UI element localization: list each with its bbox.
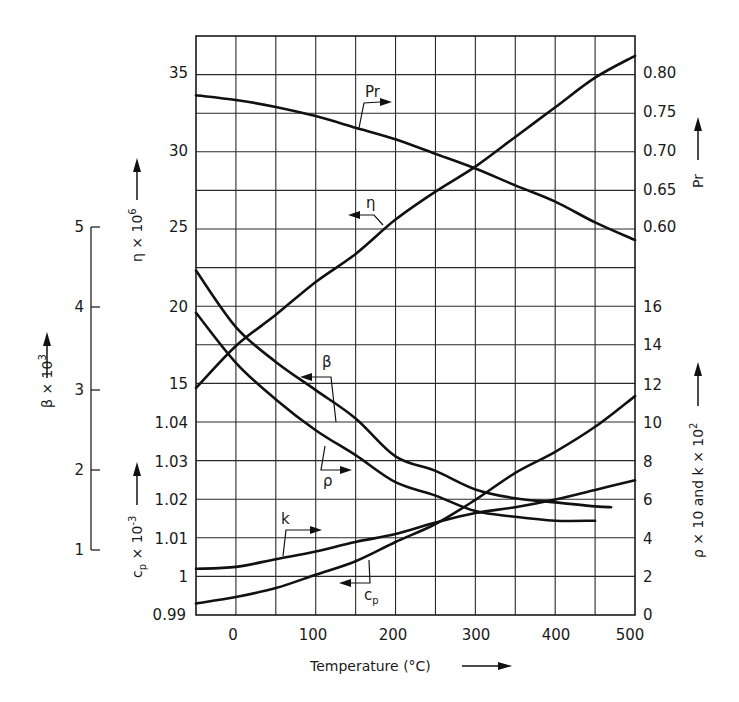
rhok-tick: 12 bbox=[643, 376, 662, 394]
cp-axis-label: cp × 10-3 bbox=[127, 516, 148, 579]
rhok-tick: 8 bbox=[643, 453, 653, 471]
pr-tick: 0.65 bbox=[643, 181, 676, 199]
x-axis-label: Temperature (°C) bbox=[309, 658, 431, 674]
svg-text:Pr: Pr bbox=[365, 83, 381, 101]
rhok-axis-arrow-icon bbox=[694, 362, 702, 406]
rhok-tick: 14 bbox=[643, 336, 662, 354]
svg-text:cp: cp bbox=[364, 586, 379, 606]
pr-axis-ticks: 0.80 0.75 0.70 0.65 0.60 bbox=[643, 64, 676, 236]
rhok-axis-ticks: 16 14 12 10 8 6 4 2 0 bbox=[643, 298, 662, 624]
rhok-axis-label: ρ × 10 and k × 102 bbox=[688, 423, 706, 559]
eta-tick: 15 bbox=[169, 375, 188, 393]
beta-tick: 4 bbox=[74, 298, 84, 316]
pr-tick: 0.70 bbox=[643, 142, 676, 160]
svg-text:k: k bbox=[281, 510, 290, 528]
beta-axis: 5 4 3 2 1 bbox=[74, 218, 100, 559]
rhok-tick: 16 bbox=[643, 298, 662, 316]
x-tick: 500 bbox=[616, 626, 645, 644]
rhok-tick: 10 bbox=[643, 414, 662, 432]
x-tick: 400 bbox=[542, 626, 571, 644]
x-tick: 100 bbox=[299, 626, 328, 644]
curve-label-eta: η bbox=[348, 194, 383, 225]
x-axis-arrow-icon bbox=[462, 662, 512, 670]
pr-axis-arrow-icon bbox=[694, 117, 702, 160]
cp-axis-ticks: 1.04 1.03 1.02 1.01 1 0.99 bbox=[153, 414, 188, 624]
x-tick: 200 bbox=[379, 626, 408, 644]
rhok-tick: 4 bbox=[643, 530, 653, 548]
svg-text:β × 103: β × 103 bbox=[37, 354, 55, 408]
cp-tick: 1.01 bbox=[155, 530, 188, 548]
cp-tick: 1.02 bbox=[155, 491, 188, 509]
curve-label-pr: Pr bbox=[359, 83, 392, 128]
curve-cp bbox=[196, 396, 635, 603]
curve-label-beta: β bbox=[300, 353, 336, 422]
rhok-tick: 2 bbox=[643, 568, 653, 586]
eta-tick: 20 bbox=[169, 298, 188, 316]
pr-tick: 0.80 bbox=[643, 64, 676, 82]
svg-text:ρ: ρ bbox=[323, 472, 333, 490]
rhok-tick: 0 bbox=[643, 606, 653, 624]
eta-tick: 25 bbox=[169, 218, 188, 236]
beta-axis-label: β × 103 bbox=[37, 354, 55, 408]
x-tick: 0 bbox=[228, 626, 238, 644]
eta-tick: 35 bbox=[169, 64, 188, 82]
curve-label-cp: cp bbox=[339, 560, 379, 606]
eta-axis-ticks: 35 30 25 20 15 bbox=[169, 64, 188, 393]
svg-text:cp × 10-3: cp × 10-3 bbox=[127, 516, 148, 579]
curves bbox=[196, 56, 635, 604]
x-axis-ticks: 0 100 200 300 400 500 bbox=[228, 626, 644, 644]
curve-η bbox=[196, 56, 635, 388]
eta-axis-arrow-icon bbox=[133, 158, 141, 200]
pr-axis-label: Pr bbox=[690, 174, 706, 188]
svg-text:η × 106: η × 106 bbox=[127, 208, 145, 262]
beta-tick: 5 bbox=[74, 218, 84, 236]
cp-axis-arrow-icon bbox=[133, 462, 141, 505]
svg-text:β: β bbox=[322, 353, 332, 371]
svg-text:η: η bbox=[366, 194, 376, 212]
pr-tick: 0.60 bbox=[643, 218, 676, 236]
cp-tick: 1 bbox=[178, 568, 188, 586]
air-properties-chart: 0 100 200 300 400 500 Temperature (°C) 3… bbox=[0, 0, 739, 702]
eta-axis-label: η × 106 bbox=[127, 208, 145, 262]
x-tick: 300 bbox=[462, 626, 491, 644]
pr-tick: 0.75 bbox=[643, 103, 676, 121]
beta-tick: 1 bbox=[74, 541, 84, 559]
curve-label-rho: ρ bbox=[321, 446, 352, 490]
curve-Pr bbox=[196, 95, 635, 240]
rhok-tick: 6 bbox=[643, 491, 653, 509]
cp-tick: 0.99 bbox=[153, 606, 186, 624]
curve-k bbox=[196, 480, 635, 569]
beta-tick: 2 bbox=[74, 461, 84, 479]
beta-tick: 3 bbox=[74, 381, 84, 399]
svg-text:ρ × 10 and k × 102: ρ × 10 and k × 102 bbox=[688, 423, 706, 559]
eta-tick: 30 bbox=[169, 142, 188, 160]
cp-tick: 1.04 bbox=[155, 414, 188, 432]
cp-tick: 1.03 bbox=[155, 453, 188, 471]
svg-text:Pr: Pr bbox=[690, 174, 706, 188]
